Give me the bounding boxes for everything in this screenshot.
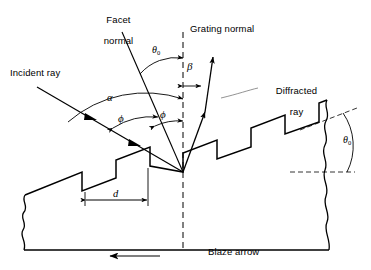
beta-symbol: β bbox=[187, 60, 192, 72]
alpha-symbol: α bbox=[107, 92, 113, 103]
left-break-edge bbox=[22, 195, 26, 250]
diffracted-ray-label: Diffracted ray bbox=[255, 75, 327, 128]
theta0-top-symbol: θ0 bbox=[152, 44, 160, 55]
theta0-angle-arc bbox=[140, 58, 183, 74]
facet-normal-label-line2: normal bbox=[104, 35, 134, 46]
phi-left-symbol: ϕ bbox=[118, 112, 124, 124]
diagram-canvas bbox=[0, 0, 371, 270]
theta0-right-symbol: θ0 bbox=[343, 134, 351, 145]
facet-normal-label-line1: Facet bbox=[106, 14, 130, 25]
theta0-top-subscript: 0 bbox=[157, 49, 160, 56]
diffracted-ray-line bbox=[183, 57, 213, 172]
grating-normal-label: Grating normal bbox=[190, 24, 254, 35]
theta0-right-subscript: 0 bbox=[348, 139, 351, 146]
incident-ray-label: Incident ray bbox=[10, 68, 60, 79]
diffracted-ray-leader bbox=[221, 88, 258, 98]
phi-right-symbol: ϕ bbox=[160, 108, 166, 120]
blaze-arrow-label: Blaze arrow bbox=[208, 247, 259, 258]
diffracted-ray-label-line2: ray bbox=[290, 106, 304, 117]
groove-spacing-label: d bbox=[113, 188, 118, 199]
phi-right-angle-arc bbox=[155, 121, 183, 126]
blazed-grating-figure: Facet normal Grating normal Incident ray… bbox=[0, 0, 371, 270]
diffracted-ray-label-line1: Diffracted bbox=[276, 85, 317, 96]
facet-normal-label: Facet normal bbox=[74, 4, 152, 57]
incident-ray-arrowhead-2 bbox=[128, 139, 141, 146]
incident-ray-arrowhead-1 bbox=[84, 113, 97, 120]
